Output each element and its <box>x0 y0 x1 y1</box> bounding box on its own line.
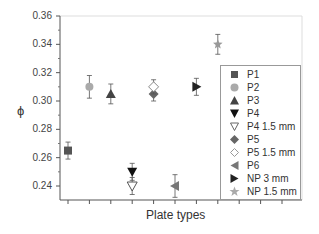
x-axis-label: Plate types <box>146 208 205 222</box>
legend-item-p2: P2 <box>221 81 300 94</box>
triangle-down-open-icon <box>229 121 240 132</box>
y-tick-label: 0.30 <box>22 95 52 106</box>
diamond-filled-icon <box>229 134 240 145</box>
y-tick-label: 0.28 <box>22 123 52 134</box>
y-tick-label: 0.32 <box>22 67 52 78</box>
diamond-open-icon <box>229 147 240 158</box>
data-point-p3 <box>106 84 116 104</box>
legend-item-p4-1-5mm: P4 1.5 mm <box>221 120 300 133</box>
triangle-down-filled-icon <box>229 108 240 119</box>
data-point-p1 <box>64 142 72 159</box>
circle-filled-icon <box>229 82 240 93</box>
legend-item-p5: P5 <box>221 133 300 146</box>
legend-item-p4: P4 <box>221 107 300 120</box>
legend-item-np-3mm: NP 3 mm <box>221 172 300 185</box>
y-tick-label: 0.26 <box>22 152 52 163</box>
data-points <box>64 34 223 197</box>
triangle-right-filled-icon <box>229 173 240 184</box>
y-tick-label: 0.34 <box>22 38 52 49</box>
y-tick-label: 0.24 <box>22 180 52 191</box>
data-point-p2 <box>85 76 93 99</box>
data-point-p6 <box>170 175 179 198</box>
legend-item-p5-1-5mm: P5 1.5 mm <box>221 146 300 159</box>
legend: P1 P2 P3 P4 P4 1.5 mm P5 P5 1.5 mm P6 NP… <box>220 65 301 200</box>
square-filled-icon <box>229 69 240 80</box>
y-tick-label: 0.36 <box>22 10 52 21</box>
legend-item-p1: P1 <box>221 68 300 81</box>
legend-item-p6: P6 <box>221 159 300 172</box>
legend-item-np-1-5mm: NP 1.5 mm <box>221 185 300 198</box>
data-point-p5-1-5-mm <box>149 80 159 94</box>
data-point-np-1-5-mm <box>213 34 223 54</box>
star-filled-icon <box>229 186 240 197</box>
triangle-up-filled-icon <box>229 95 240 106</box>
triangle-left-filled-icon <box>229 160 240 171</box>
x-axis-ticks <box>68 200 282 204</box>
y-axis-ticks <box>56 16 60 186</box>
data-point-p4-1-5-mm <box>127 178 137 195</box>
legend-item-p3: P3 <box>221 94 300 107</box>
data-point-np-3-mm <box>192 78 201 95</box>
